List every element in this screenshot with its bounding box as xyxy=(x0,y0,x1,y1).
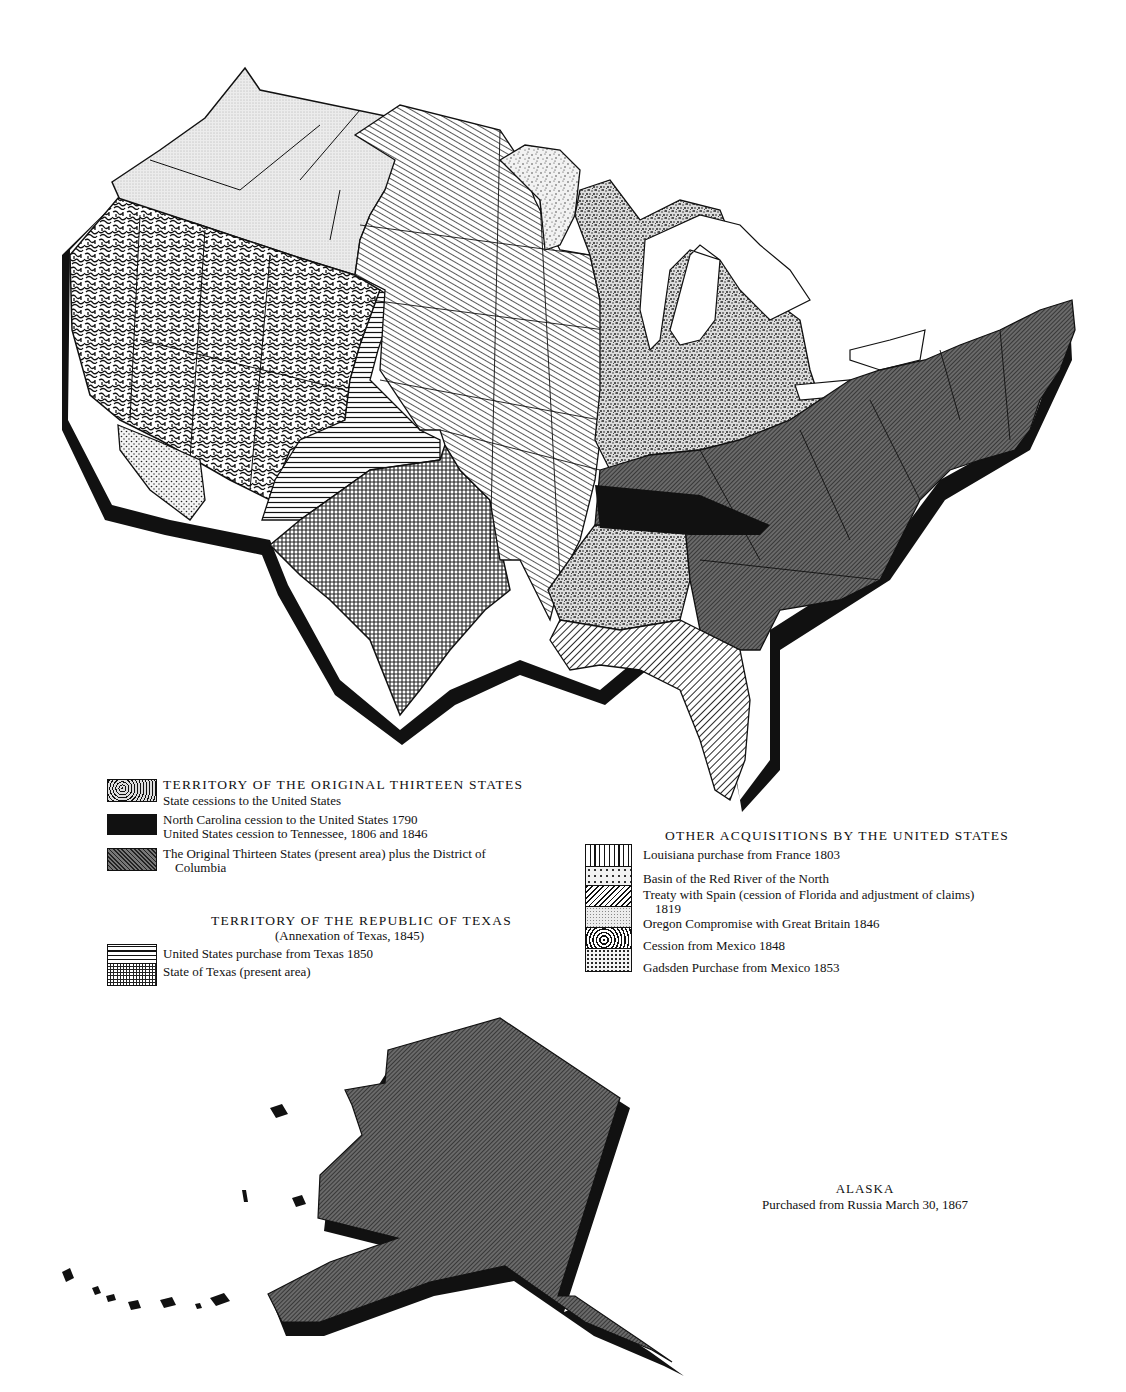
legend-item-mexican-cession: Cession from Mexico 1848 xyxy=(643,939,785,953)
aleutian-islands xyxy=(62,1104,306,1310)
swatch-mexican-cession xyxy=(585,927,632,949)
swatch-treaty-spain xyxy=(585,885,632,907)
swatch-oregon xyxy=(585,906,632,928)
legend-item-oregon: Oregon Compromise with Great Britain 184… xyxy=(643,917,880,931)
legend-heading: TERRITORY OF THE ORIGINAL THIRTEEN STATE… xyxy=(163,777,523,793)
swatch-gadsden xyxy=(585,948,632,972)
legend-item-original-thirteen: The Original Thirteen States (present ar… xyxy=(163,847,486,875)
swatch-louisiana xyxy=(585,844,632,867)
legend-subheading: (Annexation of Texas, 1845) xyxy=(275,928,424,944)
legend-item-nc-cession: North Carolina cession to the United Sta… xyxy=(163,813,428,841)
swatch-original-thirteen xyxy=(107,848,157,871)
swatch-red-river xyxy=(585,866,632,886)
legend-item-louisiana: Louisiana purchase from France 1803 xyxy=(643,848,840,862)
swatch-nc-cession xyxy=(107,814,157,835)
swatch-texas-purchase xyxy=(107,944,157,964)
legend-heading: OTHER ACQUISITIONS BY THE UNITED STATES xyxy=(665,828,1009,844)
alaska-region xyxy=(268,1018,672,1362)
legend-item-texas-purchase: United States purchase from Texas 1850 xyxy=(163,947,373,961)
legend-item-treaty-spain: Treaty with Spain (cession of Florida an… xyxy=(643,888,974,916)
swatch-texas-state xyxy=(107,963,157,986)
legend-republic-of-texas: TERRITORY OF THE REPUBLIC OF TEXAS (Anne… xyxy=(105,913,575,993)
legend-item-state-cessions: State cessions to the United States xyxy=(163,794,341,808)
swatch-state-cessions xyxy=(107,779,157,802)
legend-item-gadsden: Gadsden Purchase from Mexico 1853 xyxy=(643,961,839,975)
legend-other-acquisitions: OTHER ACQUISITIONS BY THE UNITED STATES … xyxy=(583,828,1083,988)
legend-item-red-river: Basin of the Red River of the North xyxy=(643,872,829,886)
alaska-caption: ALASKA Purchased from Russia March 30, 1… xyxy=(720,1181,1010,1213)
legend-item-texas-state: State of Texas (present area) xyxy=(163,965,311,979)
alaska-map xyxy=(62,1018,684,1376)
region-treaty-spain-florida xyxy=(550,620,750,800)
alaska-subtitle: Purchased from Russia March 30, 1867 xyxy=(720,1197,1010,1213)
legend-original-thirteen: TERRITORY OF THE ORIGINAL THIRTEEN STATE… xyxy=(105,777,575,877)
alaska-title: ALASKA xyxy=(720,1181,1010,1197)
legend-heading: TERRITORY OF THE REPUBLIC OF TEXAS xyxy=(211,913,512,929)
